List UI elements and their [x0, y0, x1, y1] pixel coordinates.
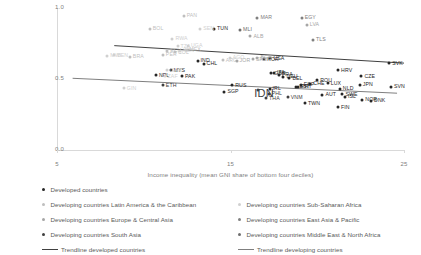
data-point: [106, 54, 109, 57]
data-point-label: SVK: [392, 61, 403, 66]
data-point: [300, 16, 303, 19]
data-point: [321, 93, 324, 96]
data-point: [148, 27, 151, 30]
data-point-label: PAN: [187, 13, 198, 18]
data-point-label: ALB: [253, 34, 263, 39]
data-point-label: KEN: [183, 48, 194, 53]
data-point-label: BRA: [133, 54, 144, 59]
y-tick-label: 1.0: [24, 4, 64, 10]
legend-item[interactable]: Developing countries East Asia & Pacific: [238, 216, 359, 223]
data-point: [231, 84, 234, 87]
data-point: [161, 84, 164, 87]
data-point-label: SEN: [203, 26, 214, 31]
x-axis-title: Income inequality (mean GNI share of bot…: [57, 171, 404, 178]
data-point-label: SVN: [394, 84, 405, 89]
chart-root: TUNINDCHLMYSPAKNPLSVKCZEJPNLUXSVNNLDSWEA…: [0, 0, 421, 255]
data-point-label: PAK: [185, 74, 195, 79]
data-point: [196, 59, 199, 62]
data-point-label: LUX: [331, 81, 341, 86]
x-tick-label: 15: [216, 161, 246, 167]
data-point-label: CHL: [207, 61, 218, 66]
data-point: [361, 99, 364, 102]
data-point: [305, 24, 308, 27]
data-point: [180, 75, 183, 78]
data-point: [252, 58, 255, 61]
data-point: [278, 73, 281, 76]
data-point-label: TWN: [308, 101, 320, 106]
x-tick-label: 25: [389, 161, 419, 167]
data-point: [161, 53, 164, 56]
data-point: [286, 96, 289, 99]
x-tick-mark: [231, 150, 232, 153]
data-point-label: JPN: [363, 82, 373, 87]
legend-item-label: Developing countries South Asia: [50, 231, 141, 238]
data-point: [265, 97, 268, 100]
legend-item-label: Developing countries Middle East & North…: [246, 231, 380, 238]
data-point-label: AGO: [233, 55, 245, 60]
data-point: [122, 87, 125, 90]
data-point-label: THA: [269, 96, 280, 101]
legend-dot-swatch: [238, 218, 241, 221]
legend-item[interactable]: Developing countries Middle East & North…: [238, 231, 380, 238]
legend-item[interactable]: Trendline developing countries: [238, 246, 343, 253]
data-point-label: RUS: [235, 83, 246, 88]
chart-legend: Developed countriesDeveloping countries …: [42, 186, 412, 250]
data-point-label: ISL: [348, 94, 356, 99]
legend-item[interactable]: Developing countries Sub-Saharan Africa: [238, 201, 362, 208]
data-point: [358, 83, 361, 86]
legend-dot-swatch: [42, 233, 45, 236]
y-tick-label: 0.0: [24, 146, 64, 152]
data-point: [221, 59, 224, 62]
data-point: [297, 85, 300, 88]
data-point-label: AUT: [325, 92, 336, 97]
x-tick-label: 5: [42, 161, 72, 167]
data-point-label: MAR: [260, 15, 272, 20]
data-point: [360, 75, 363, 78]
data-point: [337, 106, 340, 109]
legend-item-label: Developing countries Latin America & the…: [50, 201, 196, 208]
data-point: [199, 28, 202, 31]
data-point: [163, 75, 166, 78]
data-point: [223, 90, 226, 93]
data-point: [154, 74, 157, 77]
legend-line-swatch: [42, 249, 58, 250]
legend-item[interactable]: Developing countries Europe & Central As…: [42, 216, 173, 223]
data-point: [311, 38, 314, 41]
x-tick-mark: [404, 150, 405, 153]
legend-item-label: Developed countries: [50, 186, 107, 193]
data-point: [309, 82, 312, 85]
legend-item[interactable]: Trendline developed countries: [42, 246, 145, 253]
data-point-label: LVA: [310, 22, 319, 27]
trendlines-layer: [57, 8, 404, 150]
legend-item-label: Developing countries Europe & Central As…: [50, 216, 172, 223]
data-point-label: VNM: [291, 95, 303, 100]
data-point-label: EGY: [305, 15, 316, 20]
data-point: [304, 102, 307, 105]
data-point: [179, 49, 182, 52]
data-point: [176, 45, 179, 48]
legend-item-label: Trendline developing countries: [257, 246, 343, 253]
legend-item[interactable]: Developing countries South Asia: [42, 231, 141, 238]
data-point-label: CZE: [364, 74, 375, 79]
data-point-label: GIN: [127, 86, 137, 91]
legend-item-label: Developing countries East Asia & Pacific: [246, 216, 359, 223]
data-point: [389, 85, 392, 88]
data-point-label: PER: [166, 52, 177, 57]
legend-item-label: Developing countries Sub-Saharan Africa: [246, 201, 361, 208]
data-point: [128, 55, 131, 58]
data-point-label: NOR: [365, 97, 377, 102]
data-point-label: BOL: [153, 26, 164, 31]
data-point-label: MWI: [110, 53, 121, 58]
data-point: [288, 77, 291, 80]
legend-item-label: Trendline developed countries: [61, 246, 145, 253]
data-point: [270, 72, 273, 75]
data-point: [337, 69, 340, 72]
data-point: [202, 62, 205, 65]
legend-item[interactable]: Developing countries Latin America & the…: [42, 201, 196, 208]
data-point-label: ETH: [166, 83, 177, 88]
legend-item[interactable]: Developed countries: [42, 186, 108, 193]
y-tick-label: 0.5: [24, 75, 64, 81]
data-point-label: BEL: [292, 76, 302, 81]
data-point: [239, 29, 242, 32]
data-point-label: TUN: [217, 26, 228, 31]
